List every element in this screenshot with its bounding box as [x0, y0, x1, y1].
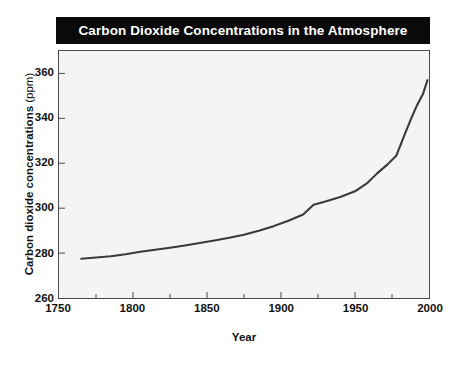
x-tick-label: 1800: [107, 303, 157, 315]
plot-area: [58, 50, 430, 299]
y-axis-title-unit: (ppm): [23, 73, 35, 103]
y-axis-title: Carbon dioxide concentrations (ppm): [23, 49, 35, 299]
y-axis-title-main: Carbon dioxide concentrations: [23, 106, 35, 275]
chart-title-text: Carbon Dioxide Concentrations in the Atm…: [79, 23, 408, 38]
co2-chart-figure: Carbon Dioxide Concentrations in the Atm…: [0, 0, 456, 366]
x-axis-tick-marks: [96, 292, 392, 298]
x-tick-label: 1850: [182, 303, 232, 315]
x-axis-title: Year: [58, 331, 430, 343]
plot-svg: [59, 51, 429, 298]
x-tick-label: 2000: [405, 303, 455, 315]
x-tick-label: 1950: [331, 303, 381, 315]
x-tick-label: 1900: [256, 303, 306, 315]
x-tick-label: 1750: [33, 303, 83, 315]
y-axis-tick-marks: [59, 73, 65, 253]
chart-title-banner: Carbon Dioxide Concentrations in the Atm…: [56, 17, 430, 44]
co2-data-line: [81, 80, 427, 259]
